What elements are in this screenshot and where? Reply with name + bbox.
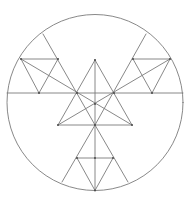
geometric-circle-diagram — [0, 0, 189, 197]
ur-vertex-a-point — [132, 58, 134, 60]
base-left-point — [57, 124, 59, 126]
bottom-small-left — [77, 158, 95, 191]
bottom-vertex-mid-point — [94, 157, 96, 159]
base-right-point — [131, 124, 133, 126]
left-long-diagonal — [21, 59, 132, 125]
line-segments — [7, 34, 183, 191]
base-middle-point — [94, 124, 96, 126]
ur-vertex-b-point — [169, 58, 171, 60]
ul-vertex-c-point — [38, 92, 40, 94]
right-long-diagonal — [58, 59, 170, 125]
bottom-vertex-right-point — [112, 157, 114, 159]
ul-vertex-a-point — [20, 58, 22, 60]
ur-small-left — [133, 59, 152, 93]
left-chord-outer — [43, 34, 95, 125]
bottom-small-right — [95, 158, 113, 191]
bottom-vertex-left-point — [76, 157, 78, 159]
right-crossing-point — [113, 92, 115, 94]
ul-small-right — [39, 59, 58, 93]
right-chord-outer — [95, 34, 146, 125]
ul-vertex-b-point — [57, 58, 59, 60]
bottom-vertex-tip-point — [94, 190, 96, 192]
ur-vertex-c-point — [151, 92, 153, 94]
center-apex-point — [94, 59, 96, 61]
center-crossing-point — [94, 103, 96, 105]
left-crossing-point — [76, 92, 78, 94]
bottom-chord-left — [62, 125, 95, 182]
bottom-chord-right — [95, 125, 128, 182]
intersection-points — [20, 58, 171, 191]
